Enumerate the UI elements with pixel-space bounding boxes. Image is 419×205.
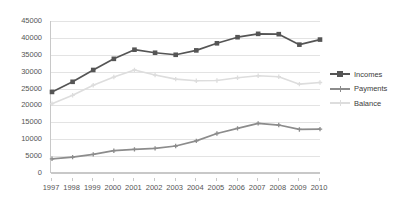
x-axis-tick <box>113 178 114 181</box>
x-axis-tick-label: 2010 <box>311 184 328 192</box>
x-axis-tick <box>133 178 134 181</box>
data-point <box>235 76 239 80</box>
legend-label: Payments <box>354 85 387 93</box>
x-axis-tick <box>257 178 258 181</box>
y-axis-tick-label: 30000 <box>21 68 42 76</box>
legend-item-payments[interactable]: Payments <box>330 83 416 96</box>
data-point <box>153 50 158 55</box>
data-point <box>194 48 199 53</box>
data-point <box>153 73 157 77</box>
series-line <box>52 123 320 158</box>
data-point <box>256 32 261 37</box>
series-balance <box>50 68 322 106</box>
data-point <box>256 74 260 78</box>
data-point <box>215 131 219 135</box>
data-point <box>50 157 54 161</box>
x-axis-tick-label: 2005 <box>208 184 225 192</box>
x-axis-labels: 1997199819992000200120022003200420052006… <box>50 178 320 196</box>
data-point <box>50 102 54 106</box>
series-payments <box>50 121 322 161</box>
gridline <box>51 173 320 174</box>
data-point <box>70 155 74 159</box>
x-axis-tick-label: 2006 <box>228 184 245 192</box>
data-point <box>91 68 96 73</box>
x-axis-tick-label: 1998 <box>63 184 80 192</box>
y-axis-labels: 0500010000150002000025000300003500040000… <box>0 21 46 173</box>
y-axis-tick-label: 10000 <box>21 135 42 143</box>
x-axis-tick <box>298 178 299 181</box>
legend-item-incomes[interactable]: Incomes <box>330 68 416 81</box>
data-point <box>173 144 177 148</box>
data-point <box>91 152 95 156</box>
x-axis-tick <box>216 178 217 181</box>
y-axis-tick-label: 35000 <box>21 51 42 59</box>
data-point <box>194 139 198 143</box>
data-point <box>132 147 136 151</box>
data-point <box>112 57 117 62</box>
legend-swatch-icon <box>330 69 350 79</box>
data-point <box>297 42 302 47</box>
x-axis-tick <box>319 178 320 181</box>
data-point <box>235 35 240 40</box>
series-incomes <box>50 32 323 95</box>
legend-label: Incomes <box>354 71 382 79</box>
legend-label: Balance <box>354 100 381 108</box>
data-point <box>297 127 301 131</box>
data-point <box>318 80 322 84</box>
data-point <box>173 52 178 57</box>
data-point <box>215 78 219 82</box>
plot-area <box>50 21 320 173</box>
data-point <box>318 37 323 42</box>
data-point <box>112 75 116 79</box>
x-axis-tick-label: 1997 <box>43 184 60 192</box>
x-axis-tick-label: 2007 <box>249 184 266 192</box>
x-axis-tick <box>237 178 238 181</box>
x-axis-tick-label: 2003 <box>166 184 183 192</box>
data-point <box>277 75 281 79</box>
x-axis-tick <box>154 178 155 181</box>
data-point <box>132 68 136 72</box>
data-point <box>132 47 137 52</box>
line-chart: 0500010000150002000025000300003500040000… <box>0 0 419 205</box>
x-axis-tick <box>72 178 73 181</box>
data-point <box>318 127 322 131</box>
x-axis-tick-label: 2008 <box>269 184 286 192</box>
y-axis-tick-label: 40000 <box>21 34 42 42</box>
x-axis-tick <box>92 178 93 181</box>
x-axis-tick-label: 1999 <box>84 184 101 192</box>
series-layer <box>51 21 321 173</box>
x-axis-tick-label: 2004 <box>187 184 204 192</box>
data-point <box>70 80 75 85</box>
data-point <box>215 41 220 46</box>
legend-swatch-icon <box>330 84 350 94</box>
y-axis-tick-label: 5000 <box>25 152 42 160</box>
series-line <box>52 70 320 104</box>
y-axis-tick-label: 45000 <box>21 17 42 25</box>
data-point <box>173 77 177 81</box>
x-axis-tick <box>278 178 279 181</box>
x-axis-tick-label: 2000 <box>105 184 122 192</box>
data-point <box>297 82 301 86</box>
x-axis-tick-label: 2002 <box>146 184 163 192</box>
y-axis-tick-label: 0 <box>38 169 42 177</box>
y-axis-tick-label: 20000 <box>21 102 42 110</box>
data-point <box>256 121 260 125</box>
data-point <box>194 79 198 83</box>
x-axis-tick-label: 2009 <box>290 184 307 192</box>
x-axis-tick <box>175 178 176 181</box>
data-point <box>153 146 157 150</box>
x-axis-tick-label: 2001 <box>125 184 142 192</box>
legend-swatch-icon <box>330 98 350 108</box>
data-point <box>277 123 281 127</box>
x-axis-tick <box>195 178 196 181</box>
y-axis-tick-label: 25000 <box>21 85 42 93</box>
data-point <box>50 90 55 95</box>
x-axis-tick <box>51 178 52 181</box>
chart-legend: IncomesPaymentsBalance <box>330 68 416 112</box>
data-point <box>112 149 116 153</box>
legend-item-balance[interactable]: Balance <box>330 97 416 110</box>
y-axis-tick-label: 15000 <box>21 119 42 127</box>
data-point <box>276 32 281 37</box>
series-line <box>52 34 320 92</box>
data-point <box>235 126 239 130</box>
